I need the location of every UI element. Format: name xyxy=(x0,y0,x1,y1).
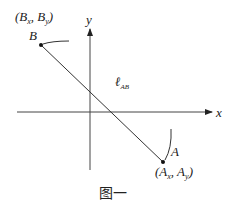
figure-caption: 图一 xyxy=(99,185,127,201)
point-b-coords: (Bx, By) xyxy=(15,9,53,26)
point-b-label: B xyxy=(29,28,37,43)
point-a-coords: (Ax, Ay) xyxy=(155,164,193,181)
coordinate-diagram: y x B (Bx, By) A (Ax, Ay) ℓAB 图一 xyxy=(0,0,234,209)
arc-b xyxy=(43,41,69,44)
x-axis-label: x xyxy=(215,105,222,120)
segment-ab-label: ℓAB xyxy=(115,74,130,91)
point-a-label: A xyxy=(170,144,179,159)
y-axis-label: y xyxy=(84,12,92,27)
point-b xyxy=(39,43,43,47)
segment-ab xyxy=(41,45,163,162)
